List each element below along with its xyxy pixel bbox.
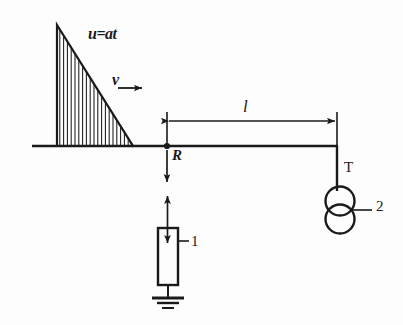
transformer-symbol	[326, 187, 355, 234]
wave-front-outline	[57, 25, 133, 146]
diagram-canvas	[0, 0, 403, 325]
surge-wave-group	[57, 25, 133, 146]
junction-node-R	[164, 143, 170, 149]
figure-container: u=at v l R T 1 2	[0, 0, 403, 325]
velocity-label: v	[112, 72, 119, 88]
length-dimension-group	[167, 112, 337, 146]
transformer-winding-secondary	[326, 205, 355, 234]
line-length-label: l	[243, 98, 248, 115]
junction-node-label: R	[172, 148, 182, 163]
transformer-callout-label: 2	[376, 199, 384, 214]
transformer-terminal-label: T	[344, 160, 353, 175]
wave-equation-label: u=at	[88, 26, 116, 42]
ground-symbol	[152, 285, 184, 308]
transformer-winding-primary	[326, 187, 355, 216]
arrester-callout-label: 1	[191, 234, 199, 249]
